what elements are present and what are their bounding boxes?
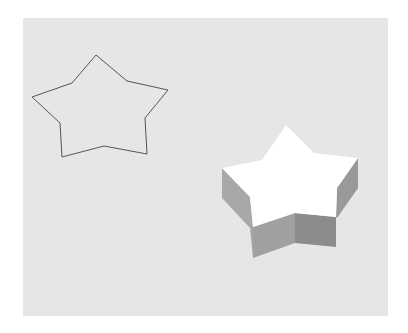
outline-star-icon [32, 55, 168, 157]
stars-diagram [0, 0, 408, 333]
extruded-star-side-front-right [295, 213, 336, 247]
